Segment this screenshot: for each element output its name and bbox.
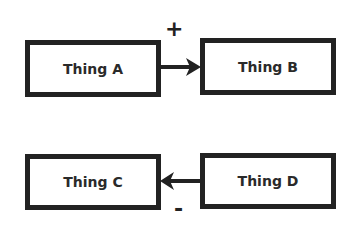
node-label: Thing B — [238, 59, 298, 75]
node-label: Thing A — [63, 61, 123, 77]
node-label: Thing D — [238, 173, 299, 189]
minus-sign: - — [174, 198, 183, 220]
node-thing-c: Thing C — [25, 154, 161, 210]
arrow-d-to-c — [160, 172, 200, 190]
node-thing-a: Thing A — [25, 40, 161, 97]
node-label: Thing C — [63, 174, 122, 190]
arrow-a-to-b — [160, 58, 201, 76]
plus-sign: + — [165, 18, 183, 40]
node-thing-d: Thing D — [200, 153, 336, 209]
node-thing-b: Thing B — [200, 38, 336, 95]
